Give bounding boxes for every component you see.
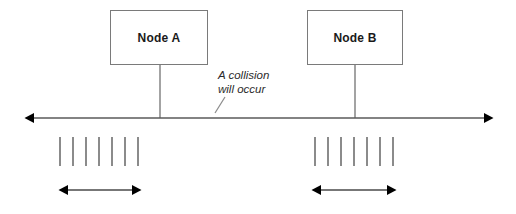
node-a-label: Node A [138,31,181,45]
collision-diagram: Node A Node B A collision will occur [0,0,516,214]
diagram-vector-layer [0,0,516,214]
left-burst-ticks [60,137,138,166]
collision-annotation-line-1: A collision [218,68,269,82]
collision-annotation: A collision will occur [218,68,269,96]
node-a-box: Node A [110,10,208,65]
collision-annotation-line-2: will occur [218,82,269,96]
node-b-box: Node B [307,10,403,65]
node-b-label: Node B [333,31,376,45]
annotation-leader-line [215,97,225,113]
right-burst-ticks [315,137,393,166]
